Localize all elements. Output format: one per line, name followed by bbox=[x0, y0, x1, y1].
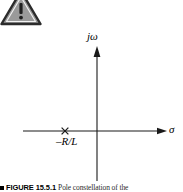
figure-caption: FIGURE 15.5.1 Pole constellation of the bbox=[0, 183, 183, 192]
figure-panel: jω σ –R/L FIGURE 15.5.1 Pole constellati… bbox=[0, 0, 183, 192]
imaginary-axis-arrowhead bbox=[94, 46, 101, 57]
caption-number: FIGURE 15.5.1 bbox=[6, 183, 56, 192]
pole-label-minus-r-over-l: –R/L bbox=[56, 136, 77, 147]
caption-marker-square bbox=[0, 186, 4, 190]
imaginary-axis-label: jω bbox=[87, 31, 98, 42]
real-axis-arrowhead bbox=[157, 128, 167, 134]
real-axis-label: σ bbox=[169, 124, 174, 135]
caption-text: Pole constellation of the bbox=[58, 183, 128, 192]
s-plane-pole-plot bbox=[0, 0, 183, 192]
